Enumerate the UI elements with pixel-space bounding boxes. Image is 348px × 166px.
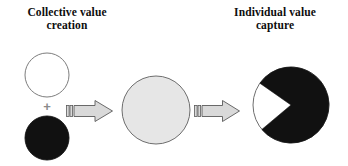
- black-circle-shape: [25, 116, 69, 160]
- value-creation-capture-figure: Collective value creation Individual val…: [0, 0, 348, 166]
- white-circle-shape: [25, 53, 69, 97]
- plus-operator-symbol: +: [39, 99, 55, 115]
- pie-chart-shape: [253, 67, 329, 143]
- arrow-2-shape: [195, 101, 240, 122]
- gray-circle-shape: [122, 76, 190, 144]
- arrow-1-shape: [67, 101, 113, 122]
- diagram-canvas: [0, 0, 348, 166]
